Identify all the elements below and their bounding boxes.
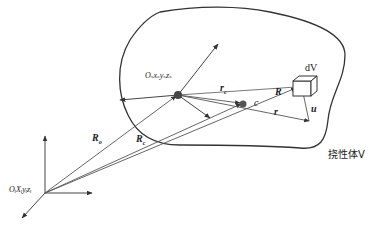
label-u: u: [311, 104, 317, 114]
body-frame-axes: [120, 44, 218, 118]
inertial-frame-label: OᵢXᵢyᵢzᵢ: [9, 186, 31, 194]
flexible-body-label: 挠性体V: [328, 150, 365, 160]
body-frame-label: Oₛxₛyₛzₛ: [145, 72, 172, 80]
volume-element-cube: [293, 76, 317, 96]
label-r-c: rc: [220, 83, 227, 95]
label-R: R: [275, 87, 282, 97]
label-R-o: Ro: [92, 133, 102, 145]
position-vectors: [45, 87, 309, 193]
vector-R-c: [45, 104, 241, 193]
centroid-dot: [240, 101, 247, 108]
label-r: r: [274, 107, 278, 117]
label-centroid-c: c: [254, 98, 258, 108]
label-dV: dV: [305, 63, 317, 73]
inertial-frame-axes: [22, 136, 92, 218]
flexible-body-diagram: [0, 0, 370, 229]
vector-r: [178, 95, 309, 121]
vector-R-o: [45, 96, 176, 193]
label-R-c: Rc: [136, 134, 145, 146]
body-origin-dot: [174, 91, 182, 99]
